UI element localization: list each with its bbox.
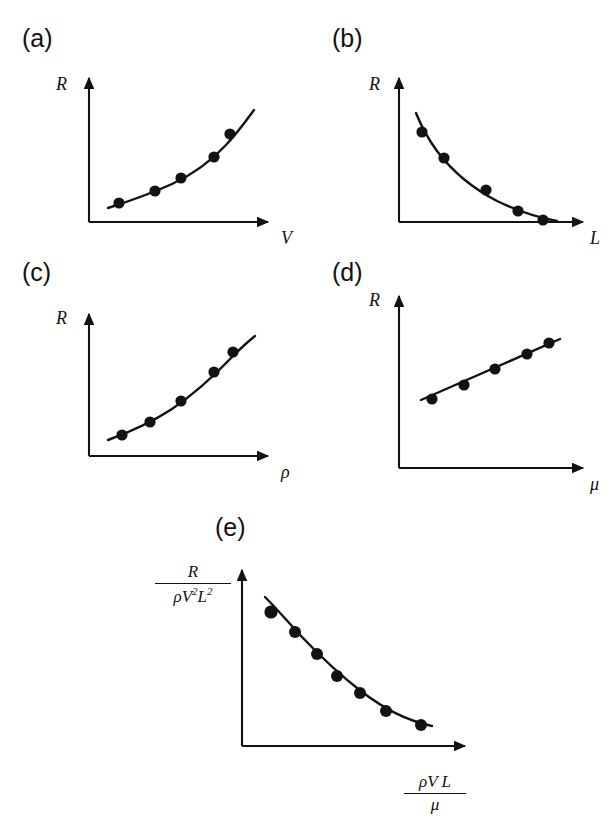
panel-d-series <box>421 337 560 404</box>
panel-a-data-point <box>208 151 219 162</box>
panel-a-x-axis-label: V <box>281 228 292 249</box>
panel-e-data-point <box>354 687 366 699</box>
panel-e-y-den-l: L <box>198 586 207 605</box>
panel-e-series <box>264 597 432 731</box>
panel-b-data-point <box>416 126 427 137</box>
panel-a-data-point <box>149 185 160 196</box>
panel-c-data-point <box>175 395 186 406</box>
panel-c-x-axis-label: ρ <box>281 462 290 483</box>
panel-e-y-den-l-exponent: 2 <box>207 585 213 597</box>
panel-e-data-point <box>264 605 277 618</box>
panel-d-y-axis-label: R <box>369 290 380 311</box>
panel-d-data-point <box>426 393 437 404</box>
panel-d-data-point <box>458 379 469 390</box>
panel-e-data-point <box>311 648 323 660</box>
panel-e-y-den-v: V <box>182 586 192 605</box>
panel-a-data-point <box>224 128 235 139</box>
panel-a-y-axis-label: R <box>56 74 67 95</box>
panel-d-data-point <box>521 348 532 359</box>
panel-a-data-point <box>113 197 124 208</box>
panel-e-fit-curve <box>265 597 432 726</box>
panel-c-data-point <box>227 346 238 357</box>
panel-b-fit-curve <box>416 113 557 221</box>
panel-e-data-point <box>289 626 301 638</box>
panel-e-y-numerator: R <box>155 562 231 583</box>
panel-b-series <box>416 113 557 226</box>
panel-b-x-axis-label: L <box>590 228 600 249</box>
panel-d-axes <box>399 296 583 468</box>
panel-d-data-point <box>543 337 554 348</box>
panel-e-data-point <box>331 670 343 682</box>
panel-e-data-point <box>415 719 427 731</box>
panel-b-data-point <box>480 184 491 195</box>
panel-c-y-axis-label: R <box>56 308 67 329</box>
panel-e-axes <box>242 570 465 746</box>
panel-c-series <box>108 336 255 441</box>
panel-a-fit-curve <box>108 110 254 208</box>
panel-c-data-point <box>208 366 219 377</box>
panel-b-tag: (b) <box>332 24 363 53</box>
panel-e-x-axis-label: ρV L μ <box>404 772 466 814</box>
panel-b-data-point <box>512 205 523 216</box>
panel-b-axes <box>399 78 583 222</box>
figure-root: (a) (b) (c) (d) (e) R V R L R ρ R μ R ρV… <box>0 0 612 831</box>
panel-d-x-axis-label: μ <box>590 474 599 495</box>
panel-d-tag: (d) <box>332 258 363 287</box>
panel-e-x-numerator: ρV L <box>404 772 466 793</box>
panel-e-x-denominator: μ <box>404 793 466 815</box>
figure-canvas <box>0 0 612 831</box>
panel-d-data-point <box>489 363 500 374</box>
panel-b-y-axis-label: R <box>369 74 380 95</box>
panel-c-tag: (c) <box>22 258 51 287</box>
panel-c-axes <box>89 314 268 456</box>
panel-c-data-point <box>116 429 127 440</box>
panel-a-series <box>108 110 254 209</box>
panel-b-data-point <box>438 152 449 163</box>
panel-e-data-point <box>380 705 392 717</box>
panel-a-data-point <box>175 172 186 183</box>
panel-e-y-axis-label: R ρV2L2 <box>155 562 231 606</box>
panel-b-data-point <box>537 214 548 225</box>
panel-e-y-den-rho: ρ <box>173 586 181 605</box>
panel-a-tag: (a) <box>22 24 53 53</box>
panel-c-data-point <box>144 416 155 427</box>
panel-e-tag: (e) <box>215 513 246 542</box>
panel-e-y-denominator: ρV2L2 <box>155 583 231 606</box>
